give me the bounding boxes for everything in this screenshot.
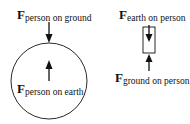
down-arrow-icon [146,25,153,42]
up-arrow-icon [46,60,53,81]
force-label-earth-on-person: Fearth on person [119,7,186,23]
earth-diagram: Fperson on ground Fperson on earth [11,7,92,119]
force-label-ground-on-person: Fground on person [115,70,190,86]
force-label-person-on-earth: Fperson on earth [17,81,84,97]
force-diagram: Fperson on ground Fperson on earth Feart… [0,0,190,124]
force-label-person-on-ground: Fperson on ground [17,7,92,23]
down-arrow-icon [46,22,53,43]
up-arrow-icon [146,54,153,71]
person-diagram: Fearth on person Fground on person [115,7,190,86]
